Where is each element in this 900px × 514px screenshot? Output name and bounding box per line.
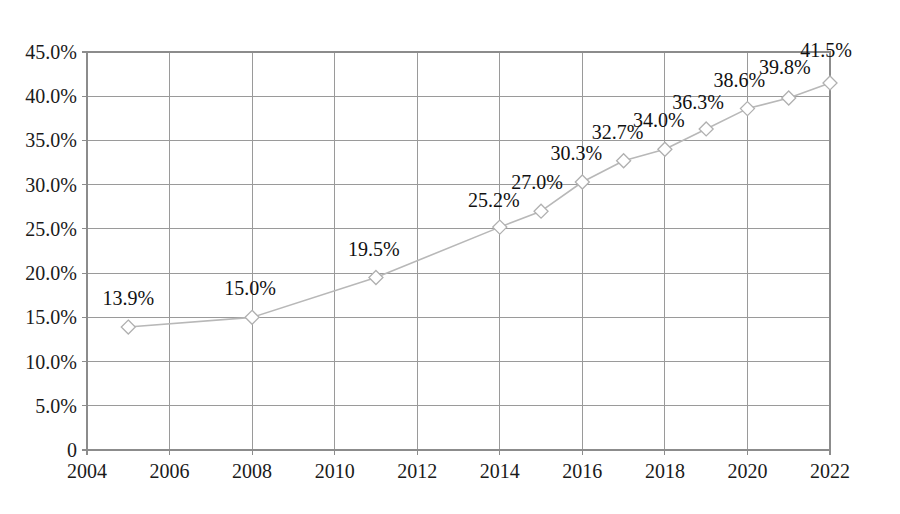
data-point-label: 36.3% <box>672 91 724 113</box>
x-axis-tick-label: 2014 <box>480 460 520 482</box>
data-point-marker <box>121 320 135 334</box>
data-point-marker <box>658 142 672 156</box>
y-axis-tick-label: 25.0% <box>25 218 77 240</box>
x-axis-tick-label: 2018 <box>645 460 685 482</box>
y-axis-tick-label: 5.0% <box>35 395 77 417</box>
y-axis-tick-label: 0 <box>67 439 77 461</box>
data-point-label: 19.5% <box>348 238 400 260</box>
y-axis-tick-label: 45.0% <box>25 41 77 63</box>
y-axis-tick-label: 15.0% <box>25 306 77 328</box>
x-axis-tick-label: 2010 <box>315 460 355 482</box>
data-point-marker <box>782 91 796 105</box>
x-axis-tick-label: 2006 <box>150 460 190 482</box>
y-axis-tick-label: 30.0% <box>25 174 77 196</box>
y-axis-tick-label: 20.0% <box>25 262 77 284</box>
y-axis-tick-labels: 05.0%10.0%15.0%20.0%25.0%30.0%35.0%40.0%… <box>25 41 77 461</box>
data-point-marker <box>617 154 631 168</box>
data-point-marker <box>823 76 837 90</box>
data-point-label: 13.9% <box>102 287 154 309</box>
data-point-label: 38.6% <box>714 69 766 91</box>
data-point-label: 41.5% <box>800 39 852 61</box>
line-chart: 05.0%10.0%15.0%20.0%25.0%30.0%35.0%40.0%… <box>0 0 900 514</box>
data-point-marker <box>699 122 713 136</box>
y-axis-tick-label: 40.0% <box>25 85 77 107</box>
data-point-marker <box>534 204 548 218</box>
data-point-label: 30.3% <box>550 142 602 164</box>
data-point-marker <box>740 102 754 116</box>
y-axis-tick-label: 35.0% <box>25 129 77 151</box>
data-point-labels: 13.9%15.0%19.5%25.2%27.0%30.3%32.7%34.0%… <box>102 39 851 309</box>
data-point-marker <box>575 175 589 189</box>
data-point-marker <box>493 220 507 234</box>
x-axis-tick-label: 2012 <box>397 460 437 482</box>
chart-canvas: 05.0%10.0%15.0%20.0%25.0%30.0%35.0%40.0%… <box>0 0 900 514</box>
y-axis-tick-label: 10.0% <box>25 351 77 373</box>
x-axis-tick-label: 2008 <box>232 460 272 482</box>
data-point-label: 27.0% <box>511 171 563 193</box>
x-axis-tick-label: 2004 <box>67 460 107 482</box>
x-axis-tick-label: 2016 <box>562 460 602 482</box>
x-axis-tick-labels: 2004200620082010201220142016201820202022 <box>67 460 850 482</box>
data-point-label: 15.0% <box>224 277 276 299</box>
x-axis-tick-label: 2022 <box>810 460 850 482</box>
x-axis-tick-label: 2020 <box>727 460 767 482</box>
data-point-marker <box>245 310 259 324</box>
